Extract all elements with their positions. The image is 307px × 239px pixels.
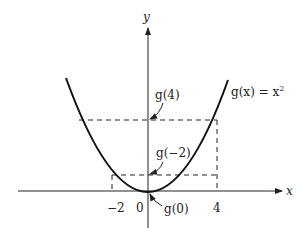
annotation-g4: g(4)	[155, 88, 180, 102]
annotation-g0: g(0)	[164, 202, 189, 216]
function-label: g(x) = x2	[231, 84, 284, 99]
tick-label-4: 4	[213, 201, 221, 215]
tick-label-neg2: −2	[107, 201, 125, 215]
tick-label-0: 0	[136, 201, 144, 215]
annotation-gneg2: g(−2)	[156, 146, 191, 160]
diagram-canvas: y x −2 0 4 g(4) g(−2) g(0) g(x) = x2	[0, 0, 307, 239]
y-axis-label: y	[142, 10, 150, 24]
function-diagram: y x −2 0 4 g(4) g(−2) g(0) g(x) = x2	[0, 0, 307, 239]
x-axis-label: x	[286, 184, 293, 198]
